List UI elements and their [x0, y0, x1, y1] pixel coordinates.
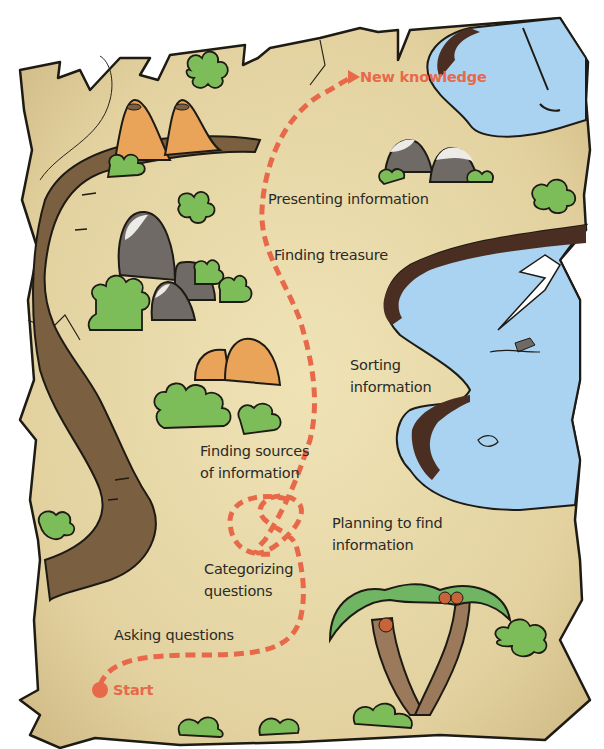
step-5-sorting-information: Sorting information [350, 354, 432, 398]
step-4-line-1: Finding sources [200, 440, 309, 462]
start-marker [92, 682, 108, 698]
step-4-line-2: of information [200, 462, 309, 484]
step-2-line-1: Categorizing [204, 558, 293, 580]
step-1-asking-questions: Asking questions [114, 624, 234, 646]
step-2-line-2: questions [204, 580, 293, 602]
step-2-categorizing: Categorizing questions [204, 558, 293, 602]
step-3-planning: Planning to find information [332, 512, 443, 556]
step-5-line-2: information [350, 376, 432, 398]
step-3-line-2: information [332, 534, 443, 556]
step-3-line-1: Planning to find [332, 512, 443, 534]
step-6-finding-treasure: Finding treasure [274, 244, 388, 266]
treasure-map-illustration [0, 0, 604, 749]
step-7-presenting-information: Presenting information [268, 188, 429, 210]
step-4-finding-sources: Finding sources of information [200, 440, 309, 484]
step-5-line-1: Sorting [350, 354, 432, 376]
end-label: New knowledge [360, 66, 487, 88]
start-label: Start [113, 679, 153, 701]
